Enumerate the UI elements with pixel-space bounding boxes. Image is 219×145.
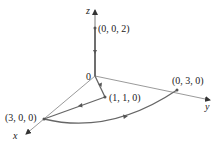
y-axis-label: y — [204, 101, 210, 112]
point-030-label: (0, 3, 0) — [172, 75, 204, 87]
origin-label: 0 — [86, 71, 91, 82]
point-300 — [43, 118, 46, 121]
point-110 — [104, 96, 107, 99]
path-segment-110-to-300 — [44, 97, 105, 119]
point-030 — [176, 89, 179, 92]
point-002 — [94, 27, 97, 30]
diagram-canvas: z y x 0 (0, 0, 2) (0, 3, 0) (1, 1, 0) (3… — [0, 0, 219, 145]
z-axis-label: z — [85, 5, 90, 16]
point-300-label: (3, 0, 0) — [5, 112, 37, 124]
point-002-label: (0, 0, 2) — [98, 23, 130, 35]
x-axis-label: x — [12, 130, 18, 141]
path-segment-z-down — [93, 28, 97, 76]
path-segment-origin-to-110 — [95, 76, 105, 97]
point-110-label: (1, 1, 0) — [109, 92, 141, 104]
